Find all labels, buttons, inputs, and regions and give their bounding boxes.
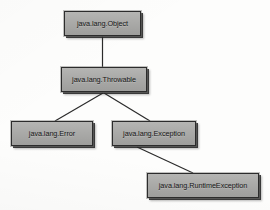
node-label: java.lang.RuntimeException — [159, 182, 247, 189]
node-label: java.lang.Throwable — [72, 76, 136, 83]
diagram-canvas: java.lang.Object java.lang.Throwable jav… — [0, 0, 270, 210]
node-label: java.lang.Object — [77, 20, 128, 27]
node-java-lang-object[interactable]: java.lang.Object — [64, 11, 141, 36]
node-java-lang-runtimeexception[interactable]: java.lang.RuntimeException — [147, 173, 259, 198]
node-label: java.lang.Error — [29, 130, 75, 137]
edge-throwable-error — [55, 93, 103, 121]
node-java-lang-throwable[interactable]: java.lang.Throwable — [61, 67, 147, 92]
node-label: java.lang.Exception — [123, 130, 185, 137]
node-java-lang-error[interactable]: java.lang.Error — [11, 121, 93, 146]
edge-exception-runtimeexception — [137, 147, 193, 173]
edge-throwable-exception — [104, 93, 150, 121]
node-java-lang-exception[interactable]: java.lang.Exception — [112, 121, 196, 146]
